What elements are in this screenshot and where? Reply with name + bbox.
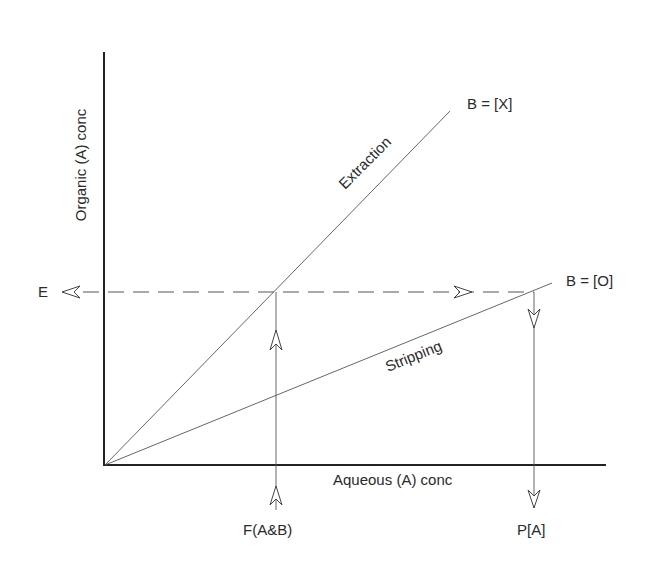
extract-left-arrow-icon xyxy=(62,286,80,298)
extraction-stripping-diagram: Organic (A) conc Aqueous (A) conc Extrac… xyxy=(0,0,653,569)
stripping-label: Stripping xyxy=(383,337,444,375)
extraction-label: Extraction xyxy=(335,133,394,192)
y-axis-label: Organic (A) conc xyxy=(72,108,89,221)
feed-label: F(A&B) xyxy=(243,521,292,538)
extraction-line xyxy=(105,111,450,465)
extract-label: E xyxy=(38,283,48,300)
dashed-right-arrow-icon xyxy=(454,286,472,298)
product-label: P[A] xyxy=(517,521,545,538)
stripping-end-label: B = [O] xyxy=(566,272,613,289)
extraction-end-label: B = [X] xyxy=(467,95,512,112)
stripping-line xyxy=(105,283,552,465)
x-axis-label: Aqueous (A) conc xyxy=(333,471,453,488)
